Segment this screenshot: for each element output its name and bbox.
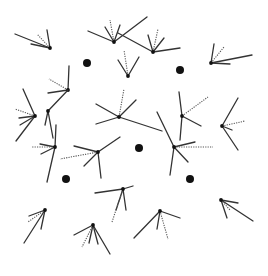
star-center-node [151, 50, 155, 54]
star-center-node [121, 187, 125, 191]
large-dot [186, 175, 194, 183]
star-center-node [91, 223, 95, 227]
star-center-node [33, 114, 37, 118]
star-center-node [220, 124, 224, 128]
star-center-node [158, 209, 162, 213]
star-center-node [53, 145, 57, 149]
star-center-node [46, 109, 50, 113]
star-center-node [96, 150, 100, 154]
large-dot [135, 144, 143, 152]
star-diagram [0, 0, 268, 276]
large-dot [83, 59, 91, 67]
star-center-node [172, 145, 176, 149]
star-center-node [117, 115, 121, 119]
star-center-node [219, 198, 223, 202]
star-center-node [180, 114, 184, 118]
large-dot [62, 175, 70, 183]
star-center-node [112, 40, 116, 44]
star-center-node [43, 208, 47, 212]
star-center-node [126, 74, 130, 78]
star-center-node [48, 46, 52, 50]
diagram-canvas [0, 0, 268, 276]
large-dot [176, 66, 184, 74]
star-center-node [209, 61, 213, 65]
